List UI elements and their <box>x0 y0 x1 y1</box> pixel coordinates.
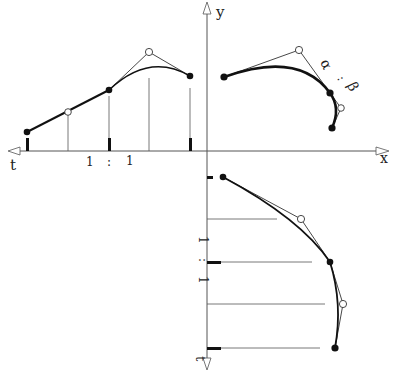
knot-point <box>24 129 31 136</box>
svg-text:1: 1 <box>86 155 94 169</box>
svg-text::: : <box>334 73 348 83</box>
knot-tick <box>207 347 221 350</box>
svg-text:α: α <box>317 57 336 73</box>
y-axis-arrow-icon <box>203 2 211 14</box>
knot-tick <box>26 138 29 151</box>
spline-diagram: y x t 1 : 1 α : β 1 : 1 t <box>0 0 396 375</box>
knot-point <box>327 259 334 266</box>
y-axis-label: y <box>215 3 225 21</box>
control-point <box>338 105 345 112</box>
t-left-arrow-icon <box>8 147 20 155</box>
t-bottom-label: t <box>193 356 208 362</box>
control-point <box>145 48 152 55</box>
svg-text:1: 1 <box>196 236 210 244</box>
svg-text::: : <box>196 258 210 262</box>
control-point <box>339 300 346 307</box>
knot-point <box>187 73 194 80</box>
control-point <box>65 109 72 116</box>
control-point <box>295 46 302 53</box>
knot-point <box>328 124 335 131</box>
curve-ratio-label: α : β <box>317 57 362 94</box>
knot-point <box>106 87 113 94</box>
bottom-ratio-label: 1 : 1 <box>196 236 210 284</box>
knot-tick <box>108 138 111 151</box>
svg-text:β: β <box>344 80 362 94</box>
knot-tick <box>207 176 213 179</box>
svg-text:1: 1 <box>126 154 134 168</box>
left-panel <box>24 48 194 151</box>
knot-point <box>326 89 333 96</box>
svg-text::: : <box>107 155 111 169</box>
control-point <box>297 215 304 222</box>
svg-text:1: 1 <box>196 276 210 284</box>
knot-point <box>220 174 227 181</box>
knot-point <box>331 344 338 351</box>
x-axis-label: x <box>380 150 388 166</box>
bottom-panel <box>207 174 347 352</box>
left-ratio-label: 1 : 1 <box>86 154 134 169</box>
knot-point <box>220 73 227 80</box>
knot-tick <box>189 138 192 151</box>
t-left-label: t <box>10 156 16 174</box>
